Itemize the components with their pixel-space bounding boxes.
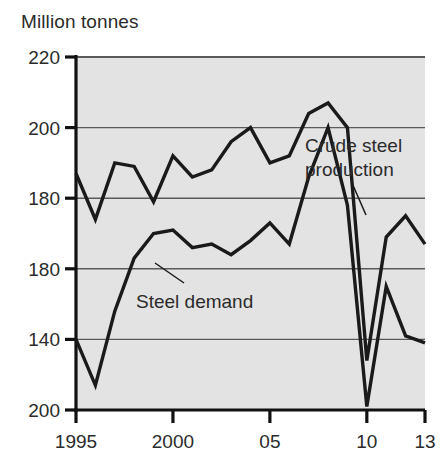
- x-tick-label: 2000: [152, 431, 194, 452]
- chart-root: Million tonnes 220200180180140200 199520…: [0, 0, 442, 468]
- annotation-crude-steel-line1: Crude steel: [305, 135, 402, 156]
- y-tick-label: 140: [28, 329, 60, 350]
- plot-background: [76, 57, 425, 410]
- x-tick-label: 1995: [55, 431, 97, 452]
- y-tick-label: 220: [28, 47, 60, 68]
- y-tick-label: 180: [28, 259, 60, 280]
- y-axis-ticks: 220200180180140200: [28, 47, 76, 421]
- y-tick-label: 200: [28, 400, 60, 421]
- x-tick-label: 13: [414, 431, 435, 452]
- annotation-steel-demand: Steel demand: [136, 291, 253, 312]
- annotation-crude-steel-line2: production: [305, 159, 394, 180]
- x-axis-ticks: 19952000051013: [55, 410, 436, 452]
- x-tick-label: 10: [356, 431, 377, 452]
- line-chart: 220200180180140200 19952000051013 Crude …: [0, 0, 442, 468]
- y-tick-label: 200: [28, 118, 60, 139]
- y-tick-label: 180: [28, 188, 60, 209]
- x-tick-label: 05: [259, 431, 280, 452]
